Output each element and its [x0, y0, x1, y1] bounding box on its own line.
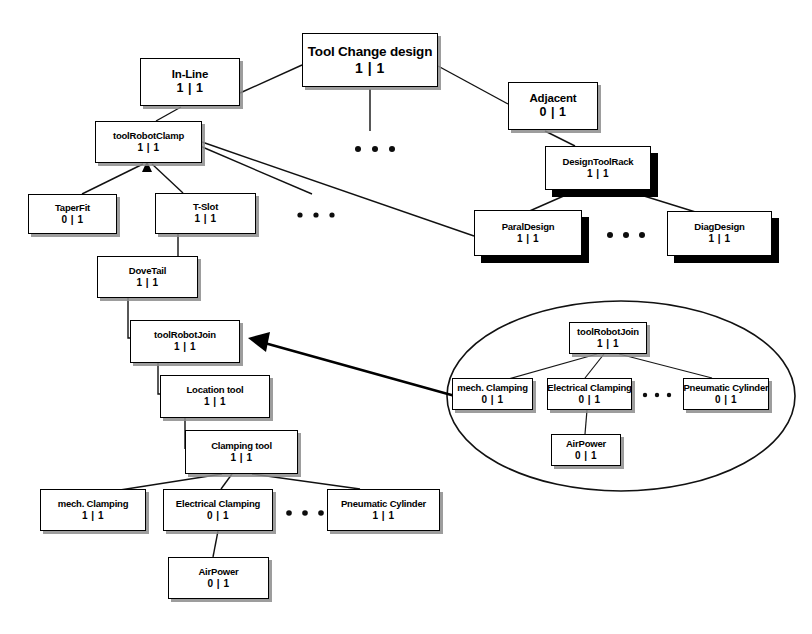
node-cardinality: 1 | 1 [138, 143, 160, 154]
edge-toolrobotclamp-stub [200, 146, 312, 194]
node-cardinality: 0 | 1 [575, 451, 597, 462]
ellipsis-dot [313, 212, 318, 217]
ellipsis-dot [286, 510, 292, 516]
ellipsis-i-dots [643, 393, 671, 397]
edge-inset-electrical-airpower [585, 410, 587, 434]
edge-adjacent-designtoolrack [545, 131, 575, 146]
node-label: toolRobotClamp [113, 131, 184, 141]
node-i-airPower[interactable]: AirPower0 | 1 [551, 434, 621, 466]
feature-tree-diagram: Tool Change design1 | 1In-Line1 | 1Adjac… [0, 0, 812, 634]
edge-inset-join-electrical [585, 354, 604, 378]
ellipsis-dot [643, 393, 647, 397]
ellipsis-dot [623, 232, 629, 238]
node-i-toolRobotJoin[interactable]: toolRobotJoin1 | 1 [569, 322, 647, 354]
ellipsis-dot [302, 510, 308, 516]
ellipsis-dot [318, 510, 324, 516]
node-label: toolRobotJoin [154, 330, 216, 340]
node-cardinality: 0 | 1 [62, 215, 84, 226]
node-label: Adjacent [530, 92, 577, 104]
edge-electricalclamping-airpower [213, 531, 218, 557]
node-pneumaticCylinder[interactable]: Pneumatic Cylinder1 | 1 [327, 489, 440, 531]
ellipsis-dot [667, 393, 671, 397]
node-cardinality: 1 | 1 [231, 453, 253, 464]
node-label: In-Line [172, 68, 208, 80]
node-adjacent[interactable]: Adjacent0 | 1 [508, 82, 598, 130]
edge-inset-join-mech [505, 354, 597, 380]
ellipsis-dot [389, 146, 395, 152]
node-label: mech. Clamping [457, 383, 528, 393]
node-label: mech. Clamping [58, 499, 129, 509]
edge-root-inline [240, 65, 302, 93]
node-label: AirPower [566, 439, 606, 449]
ellipsis-dot [607, 232, 613, 238]
node-cardinality: 1 | 1 [137, 278, 159, 289]
node-airPower[interactable]: AirPower0 | 1 [168, 557, 269, 599]
node-label: Pneumatic Cylinder [341, 499, 426, 509]
node-i-mechClamping[interactable]: mech. Clamping0 | 1 [452, 378, 533, 410]
ellipsis-dot [655, 393, 659, 397]
edge-clampingtool-electricalclamping [221, 474, 232, 489]
ref-arrow-line [261, 342, 455, 396]
node-cardinality: 1 | 1 [597, 339, 619, 350]
node-label: ParalDesign [502, 222, 555, 232]
ellipsis-dot [329, 212, 334, 217]
ref-arrowhead [248, 332, 270, 352]
node-toolRobotJoin[interactable]: toolRobotJoin1 | 1 [130, 320, 240, 363]
node-cardinality: 0 | 1 [540, 106, 567, 119]
node-label: DesignToolRack [563, 157, 634, 167]
ellipsis-dots-rack [607, 232, 645, 238]
node-cardinality: 1 | 1 [195, 214, 217, 225]
node-label: DoveTail [129, 266, 166, 276]
node-toolRobotClamp[interactable]: toolRobotClamp1 | 1 [95, 121, 202, 163]
edge-inline-toolrobotclamp [156, 107, 181, 121]
node-locationTool[interactable]: Location tool1 | 1 [160, 375, 270, 418]
node-label: Pneumatic Cylinder [683, 383, 768, 393]
edge-root-adjacent [438, 66, 508, 104]
node-label: Tool Change design [308, 45, 432, 59]
node-cardinality: 0 | 1 [579, 395, 601, 406]
node-cardinality: 0 | 1 [207, 511, 229, 522]
node-tslot[interactable]: T-Slot1 | 1 [155, 193, 256, 234]
node-label: TaperFit [55, 203, 90, 213]
node-i-pneumaticCylinder[interactable]: Pneumatic Cylinder0 | 1 [683, 378, 769, 410]
ellipsis-dots-root [355, 146, 395, 152]
ellipsis-dots-clamp [297, 212, 334, 217]
node-cardinality: 0 | 1 [208, 579, 230, 590]
ellipsis-dot [297, 212, 302, 217]
node-i-electricalClamping[interactable]: Electrical Clamping0 | 1 [547, 378, 632, 410]
inset-reference-arrow [248, 332, 455, 396]
node-cardinality: 1 | 1 [82, 511, 104, 522]
diagram-edges-layer [0, 0, 812, 634]
ellipsis-dot [372, 146, 378, 152]
node-cardinality: 1 | 1 [709, 234, 731, 245]
node-label: DiagDesign [694, 222, 744, 232]
edge-toolrobotclamp-tslot [152, 164, 183, 193]
node-root[interactable]: Tool Change design1 | 1 [302, 33, 438, 87]
node-inline[interactable]: In-Line1 | 1 [140, 58, 240, 106]
edge-clampingtool-mechclamping [120, 474, 222, 490]
node-taperFit[interactable]: TaperFit0 | 1 [28, 194, 117, 234]
edge-toolrobotclamp-taperfit [82, 164, 143, 194]
node-label: T-Slot [193, 202, 218, 212]
node-label: Electrical Clamping [547, 383, 631, 393]
node-cardinality: 1 | 1 [355, 61, 385, 76]
node-cardinality: 1 | 1 [373, 511, 395, 522]
node-paralDesign[interactable]: ParalDesign1 | 1 [474, 210, 582, 256]
node-clampingTool[interactable]: Clamping tool1 | 1 [185, 430, 298, 474]
ellipsis-dot [355, 146, 361, 152]
node-electricalClamping[interactable]: Electrical Clamping0 | 1 [163, 489, 273, 531]
node-doveTail[interactable]: DoveTail1 | 1 [97, 256, 198, 298]
node-mechClamping[interactable]: mech. Clamping1 | 1 [40, 489, 146, 531]
node-label: Electrical Clamping [176, 499, 260, 509]
node-cardinality: 1 | 1 [174, 342, 196, 353]
node-cardinality: 1 | 1 [177, 82, 204, 95]
node-cardinality: 1 | 1 [587, 169, 609, 180]
node-label: AirPower [198, 567, 238, 577]
node-label: Clamping tool [211, 441, 272, 451]
node-diagDesign[interactable]: DiagDesign1 | 1 [667, 211, 772, 256]
node-label: toolRobotJoin [577, 327, 639, 337]
node-cardinality: 1 | 1 [204, 397, 226, 408]
edge-inset-join-pneumatic [619, 354, 712, 378]
ellipsis-dot [639, 232, 645, 238]
node-designToolRack[interactable]: DesignToolRack1 | 1 [545, 146, 651, 190]
